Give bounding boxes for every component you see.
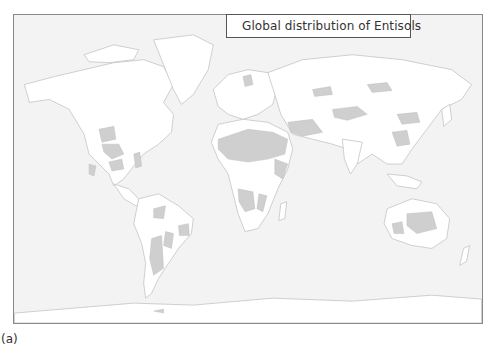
legend-label: Global distribution of Entisols	[242, 19, 421, 33]
figure-label: (a)	[1, 332, 18, 346]
world-map	[13, 14, 483, 324]
map-legend: Global distribution of Entisols	[226, 14, 411, 38]
map-graphic	[14, 15, 482, 323]
